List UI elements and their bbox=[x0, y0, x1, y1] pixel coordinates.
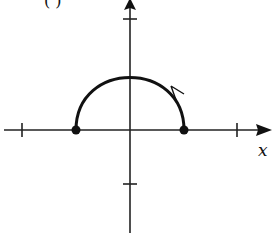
x-axis-label: x bbox=[258, 140, 268, 160]
right-endpoint-dot bbox=[180, 126, 189, 135]
graph-diagram bbox=[0, 0, 277, 233]
left-endpoint-dot bbox=[72, 126, 81, 135]
x-axis-arrow-icon bbox=[256, 124, 272, 136]
